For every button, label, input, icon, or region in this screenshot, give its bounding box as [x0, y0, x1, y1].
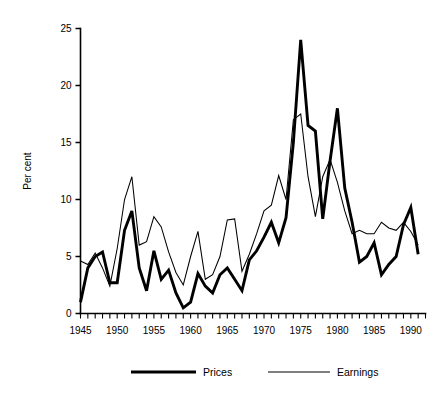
chart-container: 0510152025 19451950195519601965197019751… [0, 0, 446, 407]
x-tick-label: 1965 [216, 325, 239, 336]
y-axis: 0510152025 [60, 23, 80, 319]
x-tick-label: 1945 [69, 325, 92, 336]
series-line-prices [81, 40, 419, 308]
x-tick-label: 1990 [400, 325, 423, 336]
y-tick-label: 20 [60, 80, 72, 91]
x-axis: 1945195019551960196519701975198019851990 [69, 314, 425, 336]
y-tick-label: 15 [60, 137, 72, 148]
y-axis-title: Per cent [22, 152, 33, 189]
legend-label-earnings: Earnings [337, 366, 378, 378]
data-series-group [81, 40, 419, 308]
y-tick-label: 10 [60, 194, 72, 205]
x-tick-label: 1960 [179, 325, 202, 336]
x-tick-label: 1980 [326, 325, 349, 336]
x-tick-label: 1985 [363, 325, 386, 336]
legend-label-prices: Prices [203, 366, 232, 378]
chart-legend: PricesEarnings [131, 366, 378, 378]
y-tick-label: 25 [60, 23, 72, 34]
x-tick-label: 1970 [253, 325, 276, 336]
y-axis-title-text: Per cent [22, 152, 33, 189]
y-tick-label: 5 [66, 251, 72, 262]
y-tick-label: 0 [66, 308, 72, 319]
x-tick-label: 1950 [106, 325, 129, 336]
x-tick-label: 1955 [143, 325, 166, 336]
x-tick-label: 1975 [290, 325, 313, 336]
line-chart: 0510152025 19451950195519601965197019751… [0, 0, 446, 407]
